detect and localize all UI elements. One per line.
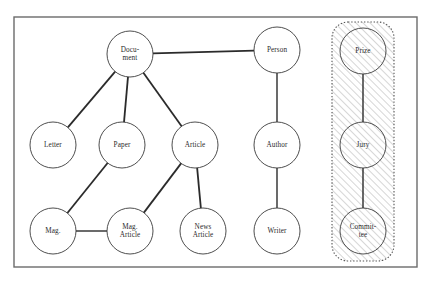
node-mag[interactable]: Mag. [30,208,76,254]
edge-document-article [143,73,181,127]
diagram-svg: Docu-mentPersonPrizeLetterPaperArticleAu… [0,0,435,284]
node-author[interactable]: Author [254,122,300,168]
node-label-mag_article: Article [120,231,141,239]
node-label-author: Author [267,141,288,149]
node-label-article: Article [185,141,206,149]
node-article[interactable]: Article [172,122,218,168]
node-label-document: Docu- [121,46,140,54]
node-label-news_article: News [195,223,212,231]
node-label-person: Person [267,46,287,54]
node-document[interactable]: Docu-ment [107,31,153,77]
node-label-prize: Prize [355,47,370,55]
edge-document-letter [68,72,115,128]
node-label-committee: tee [359,231,368,239]
diagram-canvas: Docu-mentPersonPrizeLetterPaperArticleAu… [0,0,435,284]
node-letter[interactable]: Letter [30,122,76,168]
edge-document-person [153,51,254,54]
edge-paper-mag [67,163,107,213]
node-label-paper: Paper [114,141,131,149]
edge-document-paper [124,77,128,122]
node-paper[interactable]: Paper [99,122,145,168]
node-person[interactable]: Person [254,27,300,73]
node-mag_article[interactable]: Mag.Article [107,208,153,254]
node-label-jury: Jury [357,141,370,149]
node-writer[interactable]: Writer [254,208,300,254]
node-label-committee: Commit- [350,223,377,231]
edge-article-news_article [197,168,201,208]
node-label-letter: Letter [44,141,62,149]
node-label-writer: Writer [267,227,287,235]
node-label-mag_article: Mag. [122,223,137,231]
node-news_article[interactable]: NewsArticle [180,208,226,254]
node-label-news_article: Article [193,231,214,239]
node-label-mag: Mag. [45,227,60,235]
node-label-document: ment [123,54,138,62]
edge-article-mag_article [144,163,181,212]
